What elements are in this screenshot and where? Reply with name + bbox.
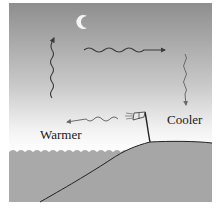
cooler-label: Cooler [167, 112, 202, 128]
warmer-label: Warmer [40, 127, 82, 143]
land-breeze-diagram [0, 0, 217, 209]
